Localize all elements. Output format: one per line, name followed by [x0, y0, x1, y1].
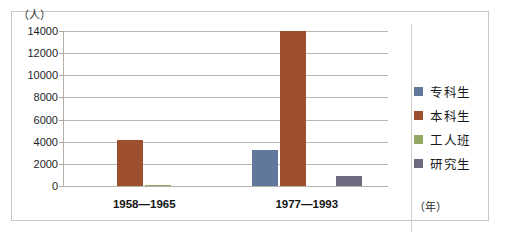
bar-本科生-1958—1965: [117, 140, 143, 186]
bar-研究生-1977—1993: [336, 176, 362, 186]
legend-item-label: 工人班: [430, 130, 471, 149]
x-axis-unit-label: （年）: [414, 198, 447, 214]
y-axis-tick-label: 2000: [14, 158, 58, 170]
y-axis-tick-label: 6000: [14, 114, 58, 126]
legend-swatch-icon: [414, 87, 423, 96]
bar-专科生-1977—1993: [252, 150, 278, 186]
gridline: [63, 97, 388, 98]
y-axis-tick: [59, 53, 64, 54]
legend-item-研究生[interactable]: 研究生: [414, 151, 494, 175]
x-axis-category-label: 1977—1993: [275, 198, 338, 210]
axis-baseline: [63, 186, 388, 187]
y-axis-tick: [59, 186, 64, 187]
y-axis-tick: [59, 31, 64, 32]
legend-swatch-icon: [414, 159, 423, 168]
y-axis-tick-label: 0: [14, 180, 58, 192]
bar-工人班-1958—1965: [145, 185, 171, 186]
legend-divider: [411, 24, 412, 232]
x-axis-category-label: 1958—1965: [113, 198, 176, 210]
y-axis-unit-label: （人）: [18, 6, 51, 22]
y-axis-tick: [59, 75, 64, 76]
legend-item-label: 研究生: [430, 154, 471, 173]
legend-item-label: 专科生: [430, 82, 471, 101]
y-axis-tick: [59, 164, 64, 165]
gridline: [63, 31, 388, 32]
legend-item-专科生[interactable]: 专科生: [414, 79, 494, 103]
chart-legend: 专科生本科生工人班研究生: [414, 79, 494, 175]
legend-swatch-icon: [414, 135, 423, 144]
gridline: [63, 164, 388, 165]
gridline: [63, 142, 388, 143]
plot-area: [63, 31, 388, 186]
gridline: [63, 53, 388, 54]
y-axis-tick-label: 8000: [14, 91, 58, 103]
bar-本科生-1977—1993: [280, 31, 306, 186]
y-axis-tick: [59, 120, 64, 121]
y-axis-tick-label: 14000: [14, 25, 58, 37]
legend-item-label: 本科生: [430, 106, 471, 125]
x-axis-category-labels: 1958—19651977—1993: [63, 198, 388, 218]
legend-item-工人班[interactable]: 工人班: [414, 127, 494, 151]
y-axis-tick-label: 4000: [14, 136, 58, 148]
y-axis-tick: [59, 142, 64, 143]
gridline: [63, 75, 388, 76]
legend-swatch-icon: [414, 111, 423, 120]
gridline: [63, 120, 388, 121]
legend-item-本科生[interactable]: 本科生: [414, 103, 494, 127]
y-axis-tick-label: 10000: [14, 69, 58, 81]
y-axis-tick-label: 12000: [14, 47, 58, 59]
y-axis-tick-labels: 02000400060008000100001200014000: [10, 31, 58, 187]
y-axis-tick: [59, 97, 64, 98]
